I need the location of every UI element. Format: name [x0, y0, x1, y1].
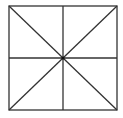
diagram-canvas — [0, 0, 123, 118]
center-point — [61, 56, 64, 59]
